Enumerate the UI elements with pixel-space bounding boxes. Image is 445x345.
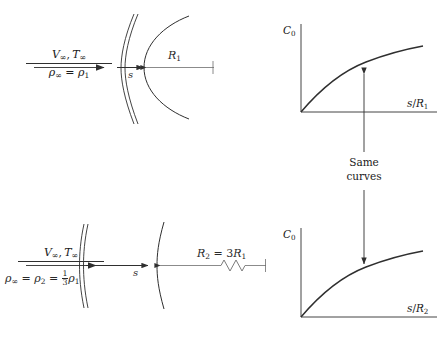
upper-chart-ylabel: C0	[283, 24, 296, 38]
lower-chart-xlabel: s/R2	[407, 302, 428, 316]
lower-freestream-density: ρ∞ = ρ2 = 13ρ1	[5, 270, 79, 287]
lower-radius-label: R2 = 3R1	[197, 248, 246, 261]
lower-freestream-velocity-temp: V∞, T∞	[18, 246, 104, 262]
upper-freestream-label: V∞, T∞ ρ∞ = ρ1	[26, 48, 112, 80]
upper-chart-curve	[301, 46, 423, 112]
lower-radius-dimension	[160, 259, 266, 272]
same-curves-line-2: curves	[334, 170, 394, 184]
upper-freestream-density: ρ∞ = ρ1	[26, 64, 112, 80]
upper-freestream-velocity-temp: V∞, T∞	[26, 48, 112, 64]
lower-freestream-label: V∞, T∞	[18, 246, 104, 262]
same-curves-label: Same curves	[334, 156, 394, 183]
lower-chart-curve	[301, 251, 423, 317]
lower-standoff-label: s	[133, 268, 138, 279]
upper-radius-label: R1	[168, 50, 181, 63]
upper-standoff-label: s	[128, 70, 133, 81]
figure-root: V∞, T∞ ρ∞ = ρ1 s R1 V∞, T∞ ρ∞ = ρ2 = 13ρ…	[0, 0, 445, 345]
lower-chart-ylabel: C0	[283, 228, 296, 242]
upper-chart-xlabel: s/R1	[407, 97, 428, 111]
same-curves-line-1: Same	[334, 156, 394, 170]
